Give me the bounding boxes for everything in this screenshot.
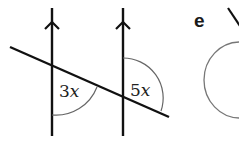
diagram-canvas: 3x 5x e	[0, 0, 239, 154]
next-diagram-line	[228, 8, 239, 26]
angle-label-3x: 3x	[59, 81, 80, 101]
part-label-e: e	[194, 10, 205, 31]
next-diagram-circle	[204, 42, 239, 118]
angle-label-5x: 5x	[130, 80, 151, 100]
